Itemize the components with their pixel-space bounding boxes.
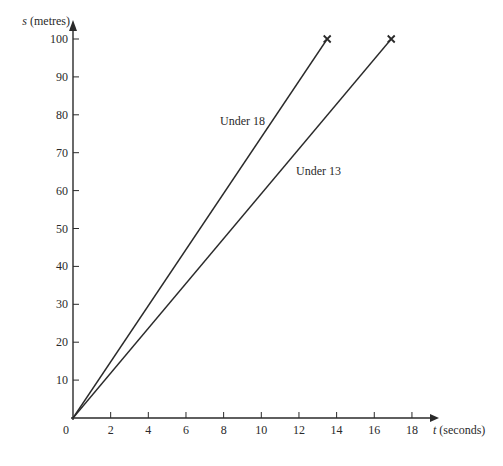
- x-axis-arrow-icon: [430, 414, 439, 422]
- x-tick-label: 0: [63, 423, 69, 437]
- x-axis-title: t (seconds): [433, 423, 485, 437]
- y-tick-label: 80: [56, 108, 68, 122]
- x-tick-label: 4: [145, 423, 151, 437]
- x-tick-label: 16: [368, 423, 380, 437]
- series-line: [73, 39, 327, 418]
- x-tick-label: 18: [406, 423, 418, 437]
- y-axis-arrow-icon: [69, 20, 77, 31]
- x-tick-label: 8: [221, 423, 227, 437]
- x-tick-label: 14: [331, 423, 343, 437]
- series-line: [73, 39, 391, 418]
- x-tick-label: 2: [108, 423, 114, 437]
- y-tick-label: 20: [56, 335, 68, 349]
- axes: [69, 20, 439, 422]
- y-tick-label: 50: [56, 222, 68, 236]
- y-tick-label: 60: [56, 184, 68, 198]
- cross-marker-icon: [388, 36, 395, 43]
- y-tick-label: 30: [56, 297, 68, 311]
- y-tick-label: 70: [56, 146, 68, 160]
- x-tick-label: 12: [293, 423, 305, 437]
- y-tick-label: 40: [56, 259, 68, 273]
- ticks: 024681012141618102030405060708090100: [50, 32, 418, 437]
- y-tick-label: 10: [56, 373, 68, 387]
- cross-marker-icon: [324, 36, 331, 43]
- y-tick-label: 90: [56, 70, 68, 84]
- series-label: Under 18: [220, 114, 265, 128]
- series-label: Under 13: [296, 164, 341, 178]
- x-tick-label: 10: [255, 423, 267, 437]
- series-lines: Under 18Under 13: [73, 36, 395, 419]
- y-tick-label: 100: [50, 32, 68, 46]
- x-tick-label: 6: [183, 423, 189, 437]
- distance-time-chart: 024681012141618102030405060708090100 Und…: [0, 0, 503, 466]
- y-axis-title: s (metres): [22, 14, 70, 28]
